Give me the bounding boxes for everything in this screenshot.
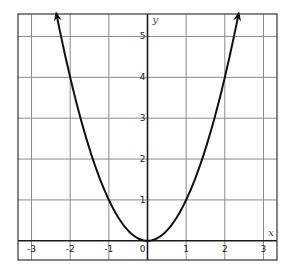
parabola-chart: -3-2-1012312345 x y: [0, 0, 292, 273]
x-tick-label: 2: [222, 244, 228, 254]
x-tick-label: 3: [261, 244, 267, 254]
y-tick-label: 5: [140, 31, 146, 41]
y-tick-label: 1: [140, 195, 146, 205]
y-tick-label: 3: [140, 113, 146, 123]
x-tick-label: -2: [66, 244, 75, 254]
tick-labels: -3-2-1012312345: [27, 31, 266, 253]
y-tick-label: 4: [140, 72, 146, 82]
x-tick-label: 0: [140, 244, 146, 254]
x-tick-label: -3: [27, 244, 36, 254]
y-tick-label: 2: [140, 154, 146, 164]
x-tick-label: -1: [104, 244, 113, 254]
axes: [18, 14, 277, 260]
y-axis-label: y: [152, 14, 159, 25]
x-tick-label: 1: [183, 244, 189, 254]
x-axis-label: x: [268, 227, 274, 238]
